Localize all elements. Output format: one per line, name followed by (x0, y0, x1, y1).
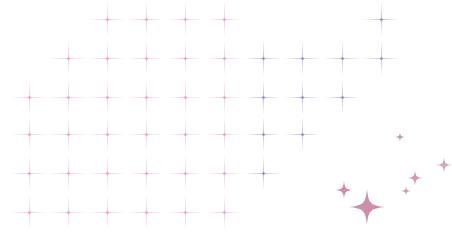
sparkle-star-icon (349, 189, 385, 225)
sparkle-star-icon (395, 132, 405, 142)
sparkle-star-icon (407, 170, 423, 186)
sparkle-star-icon (436, 157, 452, 173)
sparkle-star-icon (401, 186, 411, 196)
